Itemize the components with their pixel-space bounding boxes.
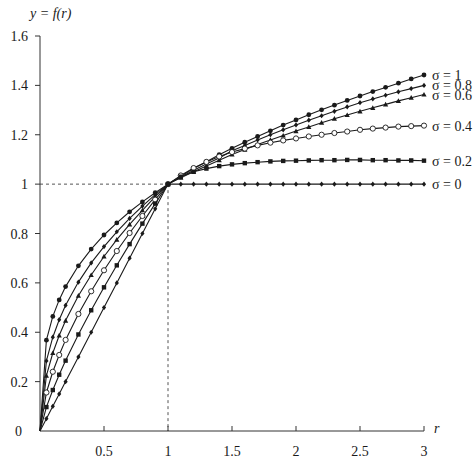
series-line xyxy=(40,123,427,431)
series-line xyxy=(40,73,426,431)
series-group xyxy=(40,73,427,431)
axes: 0.511.522.5300.20.40.60.811.21.41.6 xyxy=(11,29,428,459)
x-tick-label: 2 xyxy=(293,444,300,459)
y-tick-label: 0.4 xyxy=(11,325,29,340)
series-markers xyxy=(44,73,426,343)
series-line xyxy=(40,92,427,431)
function-chart: 0.511.522.5300.20.40.60.811.21.41.6 σ = … xyxy=(0,0,473,469)
y-tick-label: 1 xyxy=(21,177,28,192)
y-tick-label: 0 xyxy=(15,424,22,439)
x-axis-title: r xyxy=(434,421,440,436)
legend: σ = 1σ = 0.8σ = 0.6σ = 0.4σ = 0.2σ = 0 xyxy=(432,68,472,192)
legend-label: σ = 0.2 xyxy=(432,154,472,169)
series-markers xyxy=(44,92,427,378)
x-tick-label: 3 xyxy=(421,444,428,459)
x-tick-label: 1 xyxy=(165,444,172,459)
legend-label: σ = 0 xyxy=(432,177,461,192)
y-tick-label: 1.6 xyxy=(11,29,29,44)
series-line xyxy=(40,158,426,431)
x-tick-label: 2.5 xyxy=(351,444,369,459)
y-tick-label: 0.8 xyxy=(11,227,29,242)
series-markers xyxy=(44,182,426,422)
y-tick-label: 1.4 xyxy=(11,78,29,93)
legend-label: σ = 0.4 xyxy=(432,119,472,134)
y-axis-title: y = f(r) xyxy=(28,6,72,22)
series-line xyxy=(40,83,426,431)
legend-label: σ = 0.6 xyxy=(432,88,472,103)
y-tick-label: 1.2 xyxy=(11,128,29,143)
series-markers xyxy=(44,158,426,410)
y-tick-label: 0.6 xyxy=(11,276,29,291)
series-line xyxy=(40,182,426,431)
x-tick-label: 1.5 xyxy=(223,444,241,459)
series-markers xyxy=(44,83,426,364)
x-tick-label: 0.5 xyxy=(95,444,113,459)
y-tick-label: 0.2 xyxy=(11,375,29,390)
